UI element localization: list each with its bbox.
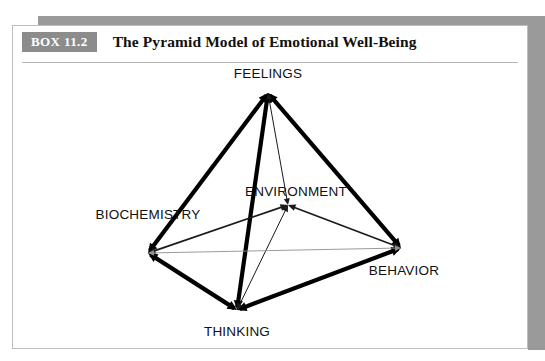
edge-line (151, 255, 235, 309)
edge-thinking-to-behavior (237, 247, 401, 311)
box-title: The Pyramid Model of Emotional Well-Bein… (113, 33, 417, 51)
edge-line (150, 248, 399, 253)
box-header: BOX 11.2 The Pyramid Model of Emotional … (22, 31, 417, 53)
node-label-environment: ENVIRONMENT (245, 184, 347, 199)
panel-shadow-right (528, 16, 545, 350)
edge-layer (148, 93, 401, 311)
arrowhead (288, 204, 296, 210)
edge-biochemistry-to-thinking (148, 253, 237, 310)
node-label-feelings: FEELINGS (234, 66, 302, 81)
pyramid-diagram-svg: FEELINGSBIOCHEMISTRYENVIRONMENTBEHAVIORT… (12, 66, 528, 348)
edge-line (240, 249, 398, 309)
edge-feelings-to-behavior (268, 93, 401, 248)
node-label-biochemistry: BIOCHEMISTRY (96, 207, 201, 222)
figure-root: BOX 11.2 The Pyramid Model of Emotional … (0, 0, 545, 361)
panel-shadow-top (38, 16, 545, 25)
pyramid-diagram: FEELINGSBIOCHEMISTRYENVIRONMENTBEHAVIORT… (12, 66, 528, 348)
edge-biochemistry-to-behavior (148, 245, 401, 255)
header-divider (22, 62, 518, 63)
node-label-thinking: THINKING (204, 324, 270, 339)
node-label-behavior: BEHAVIOR (369, 263, 439, 278)
box-number-badge: BOX 11.2 (22, 32, 97, 52)
arrowhead (284, 198, 290, 205)
